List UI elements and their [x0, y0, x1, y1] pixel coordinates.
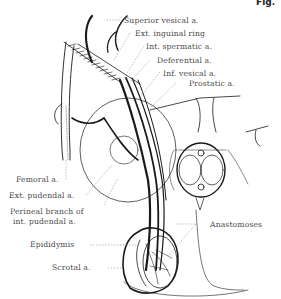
label-inf-vesical: Inf. vesical a. [163, 70, 216, 78]
label-epididymis: Epididymis [30, 241, 74, 249]
label-perineal-branch-line2: int. pudendal a. [13, 218, 76, 226]
label-ext-inguinal-ring: Ext. inguinal ring [135, 30, 205, 38]
label-int-spermatic: Int. spermatic a. [146, 43, 212, 51]
label-femoral: Femoral a. [16, 176, 59, 184]
label-prostatic: Prostatic a. [189, 80, 235, 88]
label-scrotal: Scrotal a. [52, 264, 91, 272]
label-deferential: Deferential a. [157, 57, 212, 65]
label-perineal-branch-line1: Perineal branch of [10, 208, 84, 216]
label-anastomoses: Anastomoses [210, 221, 262, 229]
arterial-supply-illustration [0, 0, 281, 299]
label-superior-vesical: Superior vesical a. [124, 17, 199, 25]
anatomical-diagram: Fig. Superior vesical a. Ext. inguinal r… [0, 0, 281, 299]
label-ext-pudendal: Ext. pudendal a. [9, 192, 74, 200]
figure-label: Fig. [256, 0, 275, 7]
